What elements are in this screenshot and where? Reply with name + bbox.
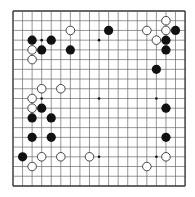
black-stone: [37, 104, 46, 113]
black-stone: [28, 133, 37, 142]
black-stone: [47, 113, 56, 122]
star-point-icon: [98, 39, 101, 42]
white-stone: [28, 162, 37, 171]
white-stone: [162, 16, 171, 25]
white-stone: [28, 104, 37, 113]
white-stone: [152, 36, 161, 45]
star-point-icon: [98, 97, 101, 100]
star-point-icon: [155, 156, 158, 159]
black-stone: [66, 45, 75, 54]
black-stone: [161, 104, 170, 113]
white-stone: [28, 55, 37, 64]
go-board[interactable]: [0, 0, 195, 197]
white-stone: [143, 162, 152, 171]
black-stone: [161, 133, 170, 142]
white-stone: [66, 26, 75, 35]
star-point-icon: [155, 97, 158, 100]
black-stone: [37, 45, 46, 54]
star-point-icon: [40, 39, 43, 42]
white-stone: [37, 153, 46, 162]
black-stone: [152, 65, 161, 74]
white-stone: [37, 84, 46, 93]
white-stone: [143, 26, 152, 35]
white-stone: [28, 46, 37, 55]
black-stone: [171, 26, 180, 35]
star-point-icon: [98, 156, 101, 159]
star-point-icon: [40, 97, 43, 100]
black-stone: [47, 36, 56, 45]
white-stone: [57, 84, 66, 93]
black-stone: [104, 26, 113, 35]
black-stone: [161, 45, 170, 54]
black-stone: [47, 133, 56, 142]
black-stone: [161, 36, 170, 45]
white-stone: [162, 153, 171, 162]
black-stone: [28, 36, 37, 45]
black-stone: [28, 113, 37, 122]
white-stone: [85, 153, 94, 162]
white-stone: [57, 153, 66, 162]
white-stone: [28, 94, 37, 103]
black-stone: [18, 152, 27, 161]
white-stone: [162, 26, 171, 35]
